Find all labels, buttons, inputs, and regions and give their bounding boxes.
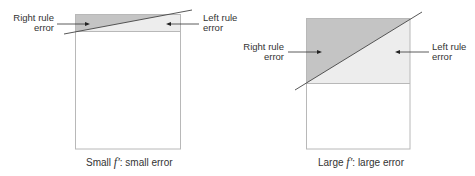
left-left-rule-label: Left rule error [203, 13, 253, 33]
label-line: error [203, 23, 253, 33]
left-frame [76, 15, 181, 150]
left-caption: Small f′: small error [86, 155, 173, 170]
right-left-rule-label: Left rule error [432, 42, 475, 62]
label-line: error [230, 52, 284, 62]
right-caption: Large f′: large error [318, 155, 404, 170]
caption-prefix: Large [318, 157, 346, 168]
right-panel-figure [288, 0, 429, 149]
label-line: error [0, 23, 54, 33]
caption-suffix: : small error [120, 157, 173, 168]
left-panel-figure [57, 0, 199, 149]
caption-prefix: Small [86, 157, 114, 168]
label-line: error [432, 52, 475, 62]
right-right-rule-label: Right rule error [230, 42, 284, 62]
caption-suffix: : large error [352, 157, 404, 168]
left-right-rule-label: Right rule error [0, 13, 54, 33]
